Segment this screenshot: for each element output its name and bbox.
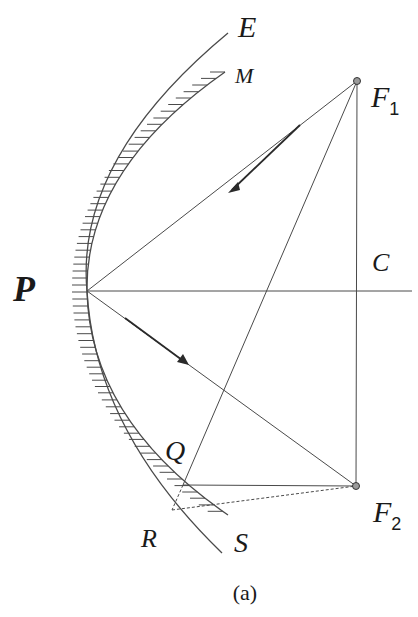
label-f2-sub: 2	[391, 514, 401, 534]
label-f1-sub: 1	[389, 99, 399, 119]
label-q: Q	[165, 435, 185, 466]
label-p: P	[12, 269, 36, 309]
outer-mirror-curve	[86, 33, 228, 553]
inner-mirror-curve	[87, 72, 228, 515]
dashed-q-r	[172, 485, 183, 510]
focal-line-f1-f2	[356, 81, 357, 486]
ray-arrow-shaft-upper	[232, 125, 300, 190]
label-f1-main: F	[370, 80, 390, 113]
label-c: C	[372, 248, 390, 277]
diagram-canvas: E M F1 C P Q F2 R S (a)	[0, 0, 418, 617]
label-f1: F1	[370, 80, 399, 119]
figure-caption: (a)	[233, 580, 257, 605]
label-f2: F2	[372, 495, 401, 534]
label-r: R	[140, 524, 157, 553]
ray-arrow-shaft-lower	[125, 318, 182, 360]
arrow-head-lower-icon	[177, 354, 189, 365]
line-q-f2	[183, 485, 356, 486]
line-f1-q	[183, 81, 357, 485]
arrow-head-upper-icon	[228, 182, 240, 193]
ray-f1-p	[87, 81, 357, 291]
label-e: E	[237, 10, 256, 43]
label-f2-main: F	[372, 495, 392, 528]
optics-figure: E M F1 C P Q F2 R S (a)	[0, 0, 418, 617]
focus-point-f2	[353, 483, 360, 490]
label-m: M	[234, 63, 255, 88]
focus-point-f1	[354, 78, 361, 85]
label-s: S	[234, 527, 248, 558]
